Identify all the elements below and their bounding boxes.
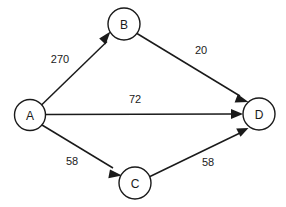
edge-a-b-line <box>42 42 108 106</box>
edge-a-d-weight: 72 <box>129 93 141 105</box>
edge-c-d[interactable]: 58 <box>150 128 249 177</box>
edge-b-d-line <box>137 34 240 97</box>
edge-b-d[interactable]: 20 <box>137 34 249 103</box>
edge-a-d[interactable]: 72 <box>46 93 244 119</box>
edge-b-d-arrowhead <box>235 94 249 102</box>
edge-a-b-arrowhead <box>99 32 110 45</box>
edge-b-d-weight: 20 <box>195 44 207 56</box>
node-c[interactable]: C <box>119 167 151 199</box>
node-d[interactable]: D <box>243 98 275 130</box>
node-a-label: A <box>26 109 34 123</box>
graph-canvas: 270 20 72 58 58 A <box>0 0 286 207</box>
edge-a-b[interactable]: 270 <box>42 32 111 106</box>
edge-a-c[interactable]: 58 <box>42 125 122 178</box>
edge-a-d-arrowhead <box>231 109 243 119</box>
node-c-label: C <box>131 177 140 191</box>
edge-a-b-weight: 270 <box>51 53 69 65</box>
edge-c-d-line <box>150 133 240 177</box>
node-b-label: B <box>120 18 128 32</box>
graph-svg: 270 20 72 58 58 A <box>0 0 286 207</box>
node-a[interactable]: A <box>15 100 46 131</box>
edge-a-d-line <box>46 114 233 115</box>
edge-c-d-weight: 58 <box>202 156 214 168</box>
edge-a-c-weight: 58 <box>66 155 78 167</box>
node-b[interactable]: B <box>108 8 140 40</box>
node-d-label: D <box>255 108 264 122</box>
edge-c-d-arrowhead <box>236 128 248 137</box>
